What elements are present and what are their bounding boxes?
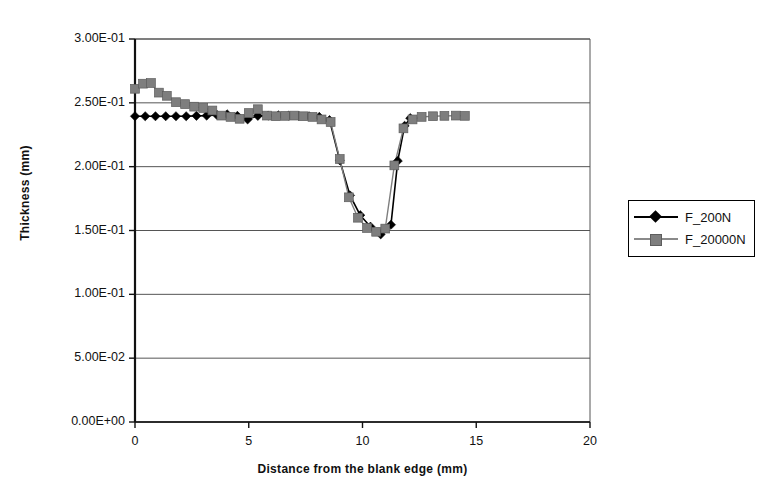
- chart-legend: F_200N F_20000N: [628, 200, 755, 257]
- legend-label-f200n: F_200N: [685, 210, 731, 225]
- data-point-marker-square: [244, 109, 253, 118]
- data-point-marker-square: [139, 79, 148, 88]
- data-point-marker-square: [451, 111, 460, 120]
- legend-item-f200n: F_200N: [634, 206, 746, 228]
- data-point-marker-square: [335, 155, 344, 164]
- data-point-marker-square: [181, 100, 190, 109]
- data-point-marker-square: [354, 213, 363, 222]
- legend-swatch-f200n: [634, 210, 678, 224]
- data-point-marker-square: [253, 105, 262, 114]
- data-point-marker-square: [299, 112, 308, 121]
- data-point-marker-square: [399, 124, 408, 133]
- data-point-marker-diamond: [141, 112, 150, 121]
- data-point-marker-square: [290, 111, 299, 120]
- data-point-marker-square: [317, 115, 326, 124]
- data-point-marker-square: [344, 193, 353, 202]
- data-point-marker-square: [172, 98, 181, 107]
- data-point-marker-square: [326, 118, 335, 127]
- data-point-marker-square: [460, 111, 469, 120]
- data-point-marker-square: [147, 79, 156, 88]
- data-point-marker-square: [440, 111, 449, 120]
- data-point-marker-diamond: [171, 112, 180, 121]
- data-point-marker-square: [281, 111, 290, 120]
- data-point-marker-square: [235, 114, 244, 123]
- data-point-marker-square: [199, 104, 208, 113]
- diamond-marker-icon: [649, 210, 662, 223]
- data-point-marker-square: [429, 112, 438, 121]
- data-point-marker-square: [162, 91, 171, 100]
- legend-swatch-f20000n: [634, 232, 678, 246]
- data-point-marker-square: [131, 84, 140, 93]
- data-point-marker-square: [408, 115, 417, 124]
- data-point-marker-square: [217, 111, 226, 120]
- data-point-marker-diamond: [161, 112, 170, 121]
- data-point-marker-square: [363, 224, 372, 233]
- data-point-marker-square: [308, 112, 317, 121]
- data-point-marker-square: [381, 224, 390, 233]
- series-line-f_200n: [135, 114, 410, 234]
- data-point-marker-diamond: [151, 112, 160, 121]
- data-point-marker-square: [263, 111, 272, 120]
- legend-item-f20000n: F_20000N: [634, 228, 746, 250]
- data-point-marker-square: [208, 106, 217, 115]
- data-point-marker-square: [390, 161, 399, 170]
- legend-label-f20000n: F_20000N: [685, 232, 746, 247]
- data-point-marker-diamond: [182, 112, 191, 121]
- data-point-marker-square: [372, 227, 381, 236]
- data-point-marker-square: [272, 112, 281, 121]
- square-marker-icon: [650, 234, 662, 246]
- data-point-marker-square: [226, 112, 235, 121]
- data-point-marker-diamond: [130, 112, 139, 121]
- chart-figure: Thickness (mm) Distance from the blank e…: [0, 0, 772, 499]
- data-point-marker-square: [417, 112, 426, 121]
- data-point-marker-square: [190, 102, 199, 111]
- data-point-marker-square: [154, 88, 163, 97]
